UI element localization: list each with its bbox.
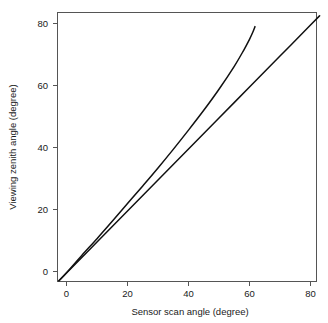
chart-figure: 80 60 40 20 0 0 20 40 60 80 Sensor scan … [0,0,328,323]
y-axis-title: Viewing zenith angle (degree) [7,84,18,210]
series-group [59,16,320,281]
y-tick-label-20: 20 [37,204,48,215]
x-tick-label-40: 40 [183,288,194,299]
x-tick-label-20: 20 [122,288,133,299]
x-tick-label-60: 60 [244,288,255,299]
x-axis-ticks [67,281,311,286]
chart-svg: 80 60 40 20 0 0 20 40 60 80 Sensor scan … [0,0,328,323]
x-axis-title: Sensor scan angle (degree) [131,306,248,317]
y-axis-ticks [53,24,58,272]
plot-frame [58,13,317,282]
x-tick-label-80: 80 [305,288,316,299]
series-viewing-zenith-curve [59,27,255,281]
series-one-to-one-line [59,16,320,281]
x-tick-label-0: 0 [64,288,69,299]
y-tick-label-0: 0 [43,266,48,277]
y-tick-label-80: 80 [37,18,48,29]
y-tick-label-60: 60 [37,80,48,91]
y-tick-label-40: 40 [37,142,48,153]
